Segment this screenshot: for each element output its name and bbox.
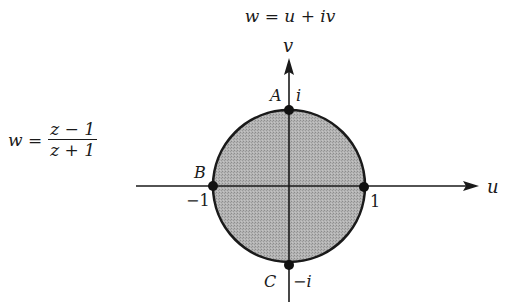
formula-numerator: z − 1 <box>48 120 97 140</box>
point-b-dot <box>208 181 218 191</box>
point-c-name: C <box>264 272 276 291</box>
point-one-value: 1 <box>370 192 380 211</box>
point-b-name: B <box>194 163 206 182</box>
point-a-dot <box>284 105 294 115</box>
point-c-dot <box>284 260 294 270</box>
point-b-value: −1 <box>186 191 210 210</box>
mapping-formula: w = z − 1 z + 1 <box>8 120 97 159</box>
point-a-value: i <box>296 86 301 105</box>
u-axis-label: u <box>487 176 499 197</box>
v-axis-label: v <box>283 35 293 56</box>
point-c-value: −i <box>293 272 312 291</box>
formula-lhs: w = <box>8 130 42 150</box>
point-one-dot <box>359 182 369 192</box>
formula-fraction: z − 1 z + 1 <box>48 120 97 159</box>
formula-denominator: z + 1 <box>48 140 97 159</box>
diagram-canvas: w = u + iv w = z − 1 z + 1 v u A i B −1 … <box>0 0 517 308</box>
point-a-name: A <box>270 86 282 105</box>
w-equation-title: w = u + iv <box>0 6 517 26</box>
